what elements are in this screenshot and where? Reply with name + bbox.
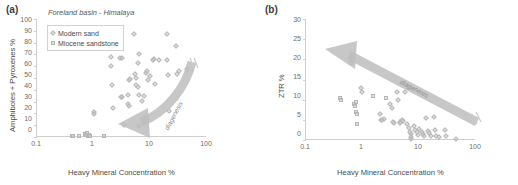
data-point-diamond bbox=[442, 127, 448, 133]
data-point-square bbox=[88, 134, 92, 138]
data-point-diamond bbox=[108, 55, 114, 61]
panel-a-ytick-0: 0 bbox=[14, 126, 32, 133]
panel-b-ytick-5: 5 bbox=[283, 111, 301, 118]
data-point-diamond bbox=[431, 114, 437, 120]
data-point-diamond bbox=[121, 122, 127, 128]
figure-container: (a) Foreland basin - Himalaya Amphiboles… bbox=[0, 0, 518, 185]
data-point-diamond bbox=[359, 89, 365, 95]
axis-tickmark bbox=[303, 80, 306, 81]
data-point-diamond bbox=[147, 73, 153, 79]
axis-tickmark bbox=[34, 66, 37, 67]
panel-a-x-axis-title: Heavy Mineral Concentration % bbox=[68, 168, 175, 177]
data-point-diamond bbox=[136, 92, 142, 98]
axis-tickmark bbox=[34, 54, 37, 55]
data-point-diamond bbox=[119, 55, 125, 61]
panel-a-xtick-1: 1 bbox=[82, 140, 102, 147]
panel-a-ytick-10: 10 bbox=[14, 115, 32, 122]
panel-a-ytick-60: 60 bbox=[14, 60, 32, 67]
data-point-diamond bbox=[137, 123, 143, 129]
panel-a-label: (a) bbox=[6, 4, 18, 15]
legend-label-miocene-sandstone: Miocene sandstone bbox=[58, 40, 119, 47]
panel-b-ytick-25: 25 bbox=[283, 35, 301, 42]
axis-tickmark bbox=[303, 100, 306, 101]
data-point-diamond bbox=[125, 92, 131, 98]
panel-a-ytick-90: 90 bbox=[14, 27, 32, 34]
data-point-diamond bbox=[423, 115, 429, 121]
panel-a-ytick-30: 30 bbox=[14, 93, 32, 100]
data-point-square bbox=[355, 112, 359, 116]
data-point-square bbox=[71, 134, 75, 138]
data-point-diamond bbox=[152, 81, 158, 87]
axis-tickmark bbox=[303, 59, 306, 60]
diamond-marker-icon bbox=[50, 30, 56, 36]
data-point-diamond bbox=[436, 134, 442, 140]
data-point-diamond bbox=[165, 72, 171, 78]
panel-a: (a) Foreland basin - Himalaya Amphiboles… bbox=[0, 0, 259, 185]
data-point-diamond bbox=[389, 105, 395, 111]
panel-b-ytick-20: 20 bbox=[283, 54, 301, 61]
square-marker-icon bbox=[51, 41, 55, 45]
data-point-square bbox=[384, 96, 388, 100]
data-point-diamond bbox=[136, 52, 142, 58]
data-point-diamond bbox=[131, 31, 137, 37]
axis-tickmark bbox=[34, 31, 37, 32]
axis-tickmark bbox=[34, 125, 37, 126]
data-point-diamond bbox=[377, 111, 383, 117]
data-point-diamond bbox=[395, 97, 401, 103]
data-point-diamond bbox=[108, 63, 114, 69]
axis-tickmark bbox=[34, 137, 37, 138]
panel-a-ytick-70: 70 bbox=[14, 49, 32, 56]
data-point-diamond bbox=[432, 127, 438, 133]
panel-b-xtick-1: 1 bbox=[351, 143, 371, 150]
axis-tickmark bbox=[34, 102, 37, 103]
data-point-diamond bbox=[135, 84, 141, 90]
data-point-diamond bbox=[453, 136, 459, 142]
panel-a-ytick-100: 100 bbox=[14, 16, 32, 23]
axis-tickmark bbox=[34, 90, 37, 91]
data-point-square bbox=[339, 98, 343, 102]
panel-b-label: (b) bbox=[265, 4, 278, 15]
axis-tickmark bbox=[303, 140, 306, 141]
data-point-diamond bbox=[110, 105, 116, 111]
panel-b-ytick-10: 10 bbox=[283, 92, 301, 99]
data-point-diamond bbox=[444, 133, 450, 139]
data-point-diamond bbox=[381, 116, 387, 122]
panel-b-xtick-0p1: 0.1 bbox=[295, 143, 315, 150]
panel-a-ytick-20: 20 bbox=[14, 104, 32, 111]
panel-b-ytick-30: 30 bbox=[283, 16, 301, 23]
panel-b-plot-area bbox=[305, 19, 475, 140]
panel-b-ytick-0: 0 bbox=[283, 130, 301, 137]
data-point-square bbox=[102, 134, 106, 138]
panel-a-ytick-40: 40 bbox=[14, 82, 32, 89]
data-point-diamond bbox=[173, 43, 179, 49]
axis-tickmark bbox=[34, 43, 37, 44]
data-point-square bbox=[371, 94, 375, 98]
legend-label-modern-sand: Modern sand bbox=[58, 30, 99, 37]
data-point-diamond bbox=[165, 31, 171, 37]
data-point-square bbox=[355, 122, 359, 126]
data-point-diamond bbox=[109, 82, 115, 88]
data-point-diamond bbox=[421, 133, 427, 139]
data-point-diamond bbox=[165, 57, 171, 63]
axis-tickmark bbox=[34, 19, 37, 20]
panel-b-xtick-10: 10 bbox=[408, 143, 428, 150]
axis-tickmark bbox=[303, 120, 306, 121]
axis-tickmark bbox=[34, 78, 37, 79]
panel-a-ytick-50: 50 bbox=[14, 71, 32, 78]
data-point-square bbox=[77, 134, 81, 138]
data-point-diamond bbox=[184, 66, 190, 72]
data-point-diamond bbox=[402, 89, 408, 95]
data-point-diamond bbox=[133, 75, 139, 81]
legend-item-miocene-sandstone: Miocene sandstone bbox=[51, 38, 119, 48]
data-point-diamond bbox=[119, 95, 125, 101]
panel-b-ytick-15: 15 bbox=[283, 73, 301, 80]
panel-b-xtick-100: 100 bbox=[465, 143, 485, 150]
data-point-square bbox=[354, 100, 358, 104]
panel-a-title: Foreland basin - Himalaya bbox=[48, 8, 134, 17]
axis-tickmark bbox=[34, 113, 37, 114]
axis-tickmark bbox=[303, 19, 306, 20]
data-point-diamond bbox=[91, 111, 97, 117]
data-point-diamond bbox=[156, 57, 162, 63]
panel-a-xtick-10: 10 bbox=[139, 140, 159, 147]
axis-tickmark bbox=[303, 39, 306, 40]
